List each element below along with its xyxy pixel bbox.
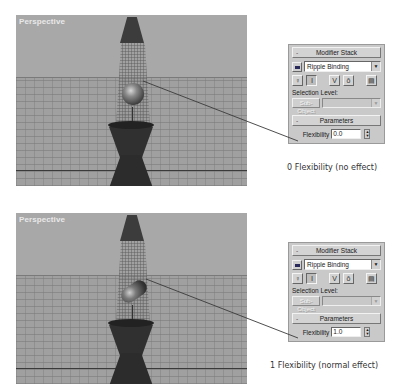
lava-blob-sphere[interactable] [122,83,144,105]
edit-stack-icon[interactable]: ▤ [366,75,377,86]
modifier-dropdown-value: Ripple Binding [307,63,349,70]
flexibility-label: Flexibility [303,329,330,336]
make-unique-icon[interactable]: V [329,273,340,284]
viewport-label[interactable]: Perspective [19,17,65,26]
parameters-rollout-header[interactable]: - Parameters [292,313,381,324]
chevron-down-icon[interactable]: ▼ [371,62,380,71]
edit-stack-icon[interactable]: ▤ [366,273,377,284]
flexibility-spinner[interactable]: ▲▼ [364,129,370,139]
modifier-dropdown-value: Ripple Binding [307,261,349,268]
parameters-rollout-header[interactable]: - Parameters [292,115,381,126]
collapse-icon: - [296,314,298,323]
chevron-down-icon[interactable]: ▼ [371,297,380,305]
rollout-title: Modifier Stack [316,247,357,254]
perspective-viewport-2[interactable]: Perspective [16,213,247,384]
selection-level-label: Selection Level: [292,287,381,294]
flexibility-spinner[interactable]: ▲▼ [364,327,370,337]
flexibility-label: Flexibility [303,131,330,138]
collapse-icon: - [296,116,298,125]
modifier-stack-rollout-header[interactable]: - Modifier Stack [292,47,381,58]
remove-modifier-icon[interactable]: ō [343,273,354,284]
collapse-icon: - [296,48,298,57]
lava-lamp-base-rim [108,121,154,129]
rollout-title: Parameters [320,315,354,322]
viewport-label[interactable]: Perspective [19,215,65,224]
rollout-title: Parameters [320,117,354,124]
modifier-dropdown[interactable]: Ripple Binding ▼ [304,259,381,270]
pin-stack-icon[interactable] [292,260,302,270]
collapse-icon: - [296,246,298,255]
lava-lamp-base-rim [108,319,154,327]
flexibility-input[interactable]: 1.0 [331,327,361,337]
remove-modifier-icon[interactable]: ō [343,75,354,86]
caption-no-effect: 0 Flexibility (no effect) [287,163,377,172]
rollout-title: Modifier Stack [316,49,357,56]
chevron-down-icon[interactable]: ▼ [371,260,380,269]
modifier-stack-rollout-header[interactable]: - Modifier Stack [292,245,381,256]
make-unique-icon[interactable]: V [329,75,340,86]
modifier-dropdown[interactable]: Ripple Binding ▼ [304,61,381,72]
caption-normal-effect: 1 Flexibility (normal effect) [270,361,378,370]
active-inactive-toggle-icon[interactable]: ♀ [292,75,303,86]
selection-level-label: Selection Level: [292,89,381,96]
command-panel-1: - Modifier Stack Ripple Binding ▼ ♀ Ⅰ V … [288,44,385,144]
pin-stack-icon[interactable] [292,62,302,72]
sub-object-button[interactable]: Sub-Object [292,98,320,108]
sub-object-dropdown[interactable]: ▼ [322,98,381,108]
sub-object-dropdown[interactable]: ▼ [322,296,381,306]
perspective-viewport-1[interactable]: Perspective [16,15,247,186]
active-inactive-toggle-icon[interactable]: ♀ [292,273,303,284]
command-panel-2: - Modifier Stack Ripple Binding ▼ ♀ Ⅰ V … [288,242,385,342]
flexibility-input[interactable]: 0.0 [331,129,361,139]
show-end-result-icon[interactable]: Ⅰ [306,273,317,284]
sub-object-button[interactable]: Sub-Object [292,296,320,306]
chevron-down-icon[interactable]: ▼ [371,99,380,107]
show-end-result-icon[interactable]: Ⅰ [306,75,317,86]
